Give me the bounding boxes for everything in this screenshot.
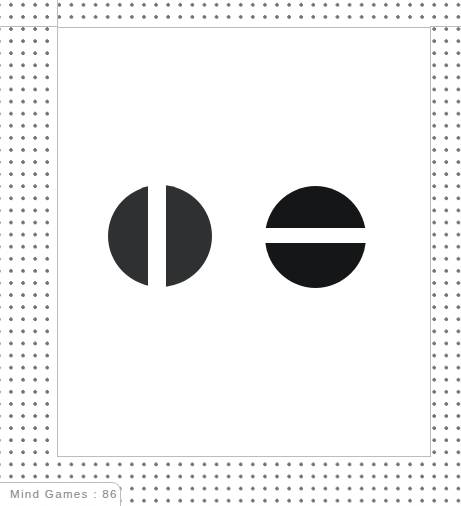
circle-split-vertical-shape [108, 185, 212, 287]
caption-box: Mind Games : 86 [0, 482, 121, 506]
panel-rule-top-left [0, 26, 58, 27]
panel-rule-left-vertical [57, 0, 58, 28]
circle-split-horizontal-shape [265, 186, 366, 288]
figure-page: Mind Games : 86 [0, 0, 461, 506]
caption-label: Mind Games : 86 [10, 488, 118, 500]
figure-content [57, 27, 431, 457]
panel-rule-top-right [430, 26, 461, 27]
